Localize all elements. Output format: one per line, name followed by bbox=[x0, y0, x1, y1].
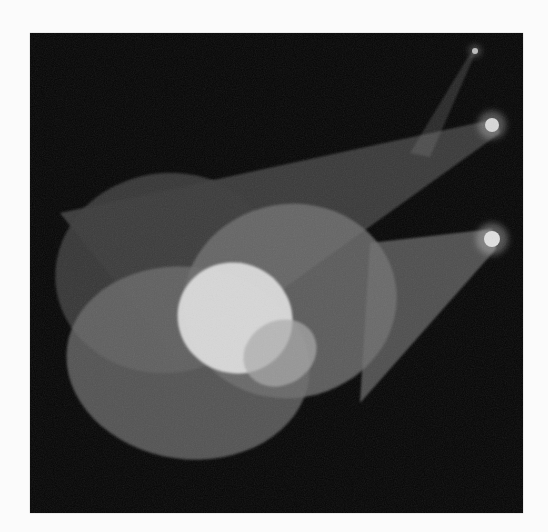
spotlight-scene bbox=[30, 33, 523, 513]
page: Stage spotlights casting overlapping ell… bbox=[0, 0, 548, 532]
spotlight-photo: Stage spotlights casting overlapping ell… bbox=[30, 33, 523, 513]
film-grain bbox=[30, 33, 523, 513]
